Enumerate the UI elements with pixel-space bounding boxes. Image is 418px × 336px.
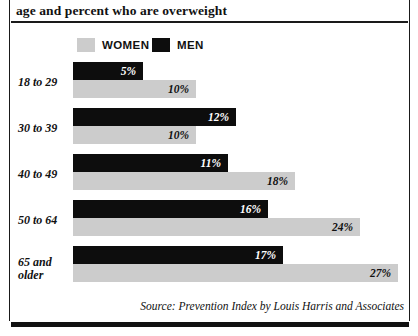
bar-women: 10% [73,126,196,144]
bar-women: 18% [73,172,295,190]
bar-men: 16% [73,200,268,218]
bar-men: 11% [73,154,228,172]
chart-plot-area: 18 to 295%10%30 to 3912%10%40 to 4911%18… [0,0,418,336]
bar-men: 12% [73,108,236,126]
bar-women: 24% [73,218,360,236]
bar-value-label: 10% [168,129,189,141]
row-label-age-group: 65 and older [18,256,70,281]
bar-value-label: 17% [255,249,276,261]
row-label-age-group: 40 to 49 [18,168,70,181]
bar-women: 27% [73,264,398,282]
bar-value-label: 5% [121,65,136,77]
bar-value-label: 10% [168,83,189,95]
bar-women: 10% [73,80,196,98]
panel-bottom-border [11,322,409,327]
row-label-age-group: 50 to 64 [18,214,70,227]
bar-men: 17% [73,246,283,264]
bar-value-label: 24% [332,221,353,233]
bar-value-label: 16% [240,203,261,215]
bar-men: 5% [73,62,143,80]
bar-value-label: 12% [208,111,229,123]
chart-panel: age and percent who are overweight WOMEN… [0,0,418,336]
bar-value-label: 18% [267,175,288,187]
row-label-age-group: 18 to 29 [18,76,70,89]
source-note: Source: Prevention Index by Louis Harris… [140,300,404,312]
row-label-age-group: 30 to 39 [18,122,70,135]
bar-value-label: 27% [370,267,391,279]
bar-value-label: 11% [201,157,221,169]
